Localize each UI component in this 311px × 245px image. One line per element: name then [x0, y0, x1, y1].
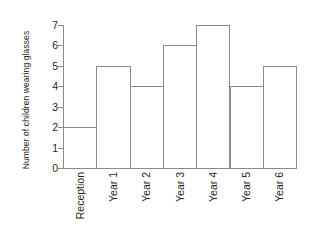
x-axis-category-label-text: Reception [74, 172, 86, 219]
plot-area: ReceptionYear 1Year 2Year 3Year 4Year 5Y… [0, 0, 311, 245]
y-axis-tick-mark [58, 66, 63, 67]
bar [96, 66, 130, 169]
x-axis-category-label-text: Year 5 [240, 172, 252, 202]
x-axis-category-label-text: Year 4 [207, 172, 219, 202]
bar [63, 127, 97, 169]
x-axis-category-label-text: Year 6 [273, 172, 285, 202]
x-axis-category-label: Year 3 [163, 172, 196, 242]
x-axis-category-label: Year 5 [230, 172, 263, 242]
y-axis-tick-mark [58, 86, 63, 87]
bar [130, 86, 164, 169]
bar [230, 86, 264, 169]
bar [263, 66, 297, 169]
x-axis-category-label: Year 1 [96, 172, 129, 242]
y-axis-tick-mark [58, 25, 63, 26]
x-axis-category-label: Reception [63, 172, 96, 242]
bar-chart-screenshot: Number of children wearing glasses 01234… [0, 0, 311, 245]
x-axis-category-label-text: Year 1 [107, 172, 119, 202]
bar [196, 25, 230, 169]
x-axis-category-label: Year 2 [130, 172, 163, 242]
x-axis-category-label: Year 4 [196, 172, 229, 242]
x-axis-category-label: Year 6 [263, 172, 296, 242]
y-axis-tick-mark [58, 107, 63, 108]
bar [163, 45, 197, 169]
x-axis-category-label-text: Year 3 [174, 172, 186, 202]
y-axis-tick-mark [58, 45, 63, 46]
x-axis-category-label-text: Year 2 [140, 172, 152, 202]
